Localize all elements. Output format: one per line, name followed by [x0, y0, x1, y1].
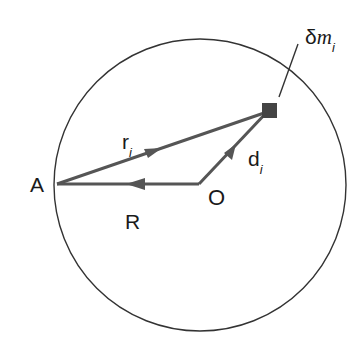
mass-leader-line	[279, 44, 298, 97]
label-r: r	[122, 130, 129, 153]
label-d-i: di	[248, 148, 263, 169]
diagram-drawing	[0, 0, 360, 356]
label-O: O	[208, 187, 225, 209]
label-A: A	[30, 174, 44, 195]
vector-r-arrowhead	[144, 148, 162, 158]
label-delta-m-i: δmi	[305, 26, 335, 48]
label-r-sub: i	[129, 145, 132, 160]
diagram: A O R ri di δmi	[0, 0, 360, 356]
label-m-sub: i	[332, 40, 335, 55]
label-m: m	[317, 25, 332, 49]
vector-R-arrowhead	[126, 178, 145, 190]
label-R: R	[125, 211, 140, 232]
label-d-sub: i	[260, 162, 263, 177]
label-d: d	[248, 147, 260, 170]
label-delta: δ	[305, 25, 317, 48]
label-r-i: ri	[122, 131, 132, 152]
mass-element	[262, 103, 277, 118]
